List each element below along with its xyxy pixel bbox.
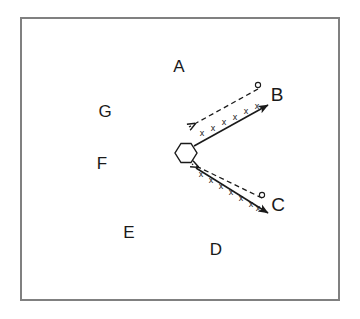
svg-text:x: x xyxy=(239,193,244,203)
svg-text:x: x xyxy=(244,106,249,116)
svg-text:x: x xyxy=(209,175,214,185)
svg-text:x: x xyxy=(233,112,238,122)
node-label-c: C xyxy=(271,194,285,215)
svg-text:x: x xyxy=(222,117,227,127)
upper-circle-marker xyxy=(255,82,260,87)
svg-text:x: x xyxy=(200,128,205,138)
lower-circle-marker xyxy=(259,192,264,197)
diagram-figure: A B C D E F G x x x x x x xyxy=(0,0,360,319)
region-label-a: A xyxy=(173,57,185,76)
region-label-f: F xyxy=(97,154,107,173)
region-label-d: D xyxy=(210,240,222,259)
diagram-canvas: A B C D E F G x x x x x x xyxy=(0,0,360,319)
node-label-b: B xyxy=(271,84,284,105)
svg-text:x: x xyxy=(229,187,234,197)
region-label-g: G xyxy=(98,102,111,121)
svg-text:x: x xyxy=(256,203,261,213)
svg-text:x: x xyxy=(219,181,224,191)
svg-text:x: x xyxy=(211,123,216,133)
svg-text:x: x xyxy=(255,101,260,111)
region-label-e: E xyxy=(123,223,134,242)
svg-text:x: x xyxy=(199,169,204,179)
svg-text:x: x xyxy=(249,199,254,209)
